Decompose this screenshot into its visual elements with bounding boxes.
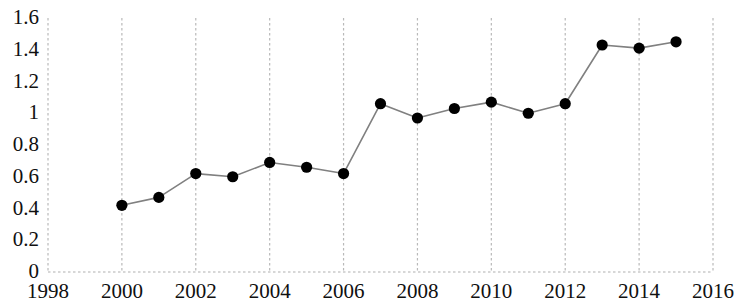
y-axis-tick-label: 1.4 bbox=[13, 39, 39, 60]
y-axis-tick-label: 1.6 bbox=[13, 7, 39, 28]
y-axis-tick-label: 1 bbox=[29, 102, 40, 123]
data-point-marker[interactable] bbox=[264, 157, 275, 168]
data-point-marker[interactable] bbox=[190, 168, 201, 179]
y-axis-tick-label: 0.4 bbox=[13, 198, 39, 219]
x-axis-tick-label: 2008 bbox=[377, 281, 457, 302]
x-axis-tick-label: 2006 bbox=[304, 281, 384, 302]
data-point-marker[interactable] bbox=[301, 162, 312, 173]
data-point-marker[interactable] bbox=[597, 39, 608, 50]
data-point-marker[interactable] bbox=[412, 112, 423, 123]
x-axis-tick-label: 2002 bbox=[156, 281, 236, 302]
data-point-marker[interactable] bbox=[486, 97, 497, 108]
y-axis-tick-label: 0.6 bbox=[13, 166, 39, 187]
x-axis-tick-label: 2016 bbox=[673, 281, 738, 302]
data-point-marker[interactable] bbox=[523, 108, 534, 119]
x-axis-tick-label: 2012 bbox=[525, 281, 605, 302]
data-point-marker[interactable] bbox=[116, 200, 127, 211]
data-point-marker[interactable] bbox=[375, 98, 386, 109]
data-point-marker[interactable] bbox=[338, 168, 349, 179]
x-axis-tick-label: 2010 bbox=[451, 281, 531, 302]
data-point-marker[interactable] bbox=[153, 192, 164, 203]
y-axis-tick-label: 0.2 bbox=[13, 229, 39, 250]
data-point-marker[interactable] bbox=[227, 171, 238, 182]
data-point-marker[interactable] bbox=[670, 36, 681, 47]
x-axis-tick-label: 2014 bbox=[599, 281, 679, 302]
x-axis-tick-label: 2004 bbox=[230, 281, 310, 302]
data-point-marker[interactable] bbox=[560, 98, 571, 109]
data-point-marker[interactable] bbox=[449, 103, 460, 114]
x-axis-tick-label: 2000 bbox=[82, 281, 162, 302]
y-axis-tick-label: 1.2 bbox=[13, 71, 39, 92]
x-axis-tick-label: 1998 bbox=[8, 281, 88, 302]
data-point-marker[interactable] bbox=[634, 43, 645, 54]
chart-plot-area bbox=[0, 0, 738, 304]
y-axis-tick-label: 0.8 bbox=[13, 134, 39, 155]
data-line bbox=[122, 42, 676, 206]
line-chart: 00.20.40.60.811.21.41.6 1998200020022004… bbox=[0, 0, 738, 304]
